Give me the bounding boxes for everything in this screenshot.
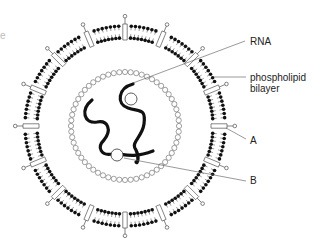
structure-circle-upper bbox=[125, 93, 137, 105]
label-a: A bbox=[250, 135, 257, 146]
label-b: B bbox=[250, 175, 257, 186]
virus-diagram bbox=[0, 0, 324, 244]
label-bilayer: bilayer bbox=[250, 83, 279, 94]
label-phospholipid: phospholipid bbox=[250, 72, 306, 83]
label-rna: RNA bbox=[250, 36, 271, 47]
cut-off-text-fragment: e bbox=[0, 30, 6, 41]
glycoprotein-spikes bbox=[13, 14, 236, 237]
structure-circle-b bbox=[111, 149, 123, 161]
